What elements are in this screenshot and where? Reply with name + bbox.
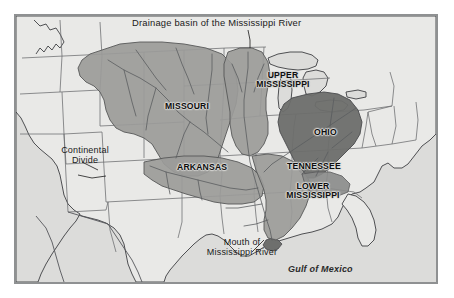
map-figure: Drainage basin of the Mississippi River … <box>0 0 454 298</box>
mouth-line2: Mississippi River <box>192 248 292 258</box>
lake-ontario <box>346 90 366 99</box>
annotation-mouth-of-mississippi: Mouth of Mississippi River <box>192 238 292 257</box>
basin-label-lower-mississippi-line2: MISSISSIPPI <box>274 191 352 200</box>
basin-label-tennessee: TENNESSEE <box>287 162 341 171</box>
annotation-continental-divide: Continental Divide <box>50 146 120 165</box>
map-frame: Drainage basin of the Mississippi River … <box>14 14 438 284</box>
continental-divide-line2: Divide <box>50 156 120 166</box>
map-title: Drainage basin of the Mississippi River <box>132 18 301 28</box>
basin-label-missouri: MISSOURI <box>165 102 209 111</box>
basin-label-lower-mississippi: LOWER MISSISSIPPI <box>274 182 352 200</box>
basin-label-upper-mississippi: UPPER MISSISSIPPI <box>245 71 321 89</box>
basin-label-arkansas: ARKANSAS <box>177 163 227 172</box>
sea-label-gulf-of-mexico: Gulf of Mexico <box>288 265 353 275</box>
basin-label-upper-mississippi-line2: MISSISSIPPI <box>245 80 321 89</box>
basin-label-ohio: OHIO <box>314 128 337 137</box>
